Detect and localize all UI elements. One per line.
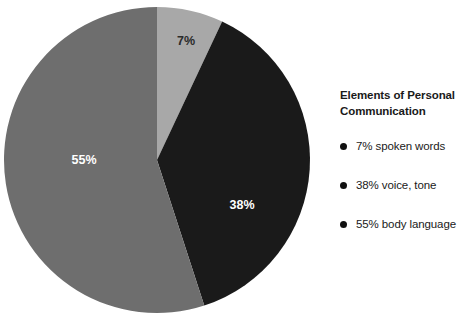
- legend-item-label: 7% spoken words: [356, 139, 445, 154]
- bullet-icon: [340, 221, 347, 228]
- legend: Elements of Personal Communication 7% sp…: [340, 88, 465, 232]
- pie-slice-label-body-language: 55%: [71, 153, 96, 167]
- pie-slice-group: [4, 7, 310, 313]
- pie-chart-svg: 7%38%55%: [0, 0, 330, 324]
- pie-slice-label-voice-tone: 38%: [229, 198, 254, 212]
- bullet-icon: [340, 143, 347, 150]
- legend-item-spoken-words: 7% spoken words: [340, 139, 465, 154]
- bullet-icon: [340, 182, 347, 189]
- pie-chart-plot-area: 7%38%55%: [0, 0, 330, 324]
- legend-item-label: 38% voice, tone: [356, 178, 436, 193]
- pie-slice-label-spoken-words: 7%: [177, 34, 195, 48]
- legend-title: Elements of Personal Communication: [340, 88, 465, 119]
- pie-chart-figure: 7%38%55% Elements of Personal Communicat…: [0, 0, 465, 324]
- legend-item-body-language: 55% body language: [340, 217, 465, 232]
- legend-item-voice-tone: 38% voice, tone: [340, 178, 465, 193]
- legend-item-label: 55% body language: [356, 217, 456, 232]
